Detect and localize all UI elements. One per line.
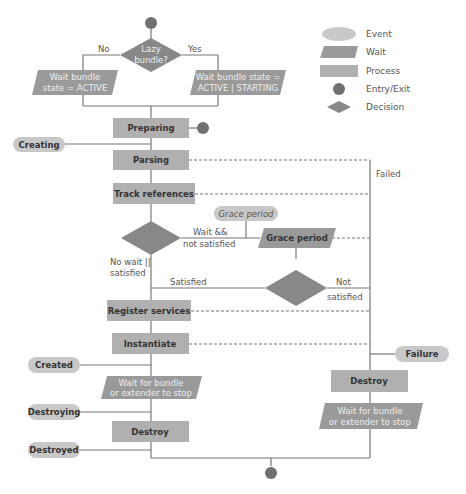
wait-bundle-active-starting: Wait bundle state = ACTIVE | STARTING (190, 70, 286, 95)
wait-active-starting-line-2: ACTIVE | STARTING (198, 83, 278, 93)
decision-lazy-bundle: Lazy bundle? (120, 38, 182, 72)
wait-stop-left-line-1: Wait for bundle (118, 378, 183, 388)
failure-label: Failure (406, 349, 439, 359)
wait-grace-period: Grace period (258, 228, 336, 248)
legend-entry-exit-swatch (333, 83, 345, 95)
destroyed-label: Destroyed (29, 445, 78, 455)
process-parsing: Parsing (113, 150, 189, 170)
created-label: Created (35, 360, 73, 370)
event-destroyed: Destroyed (28, 442, 80, 458)
wait-not-satisfied-label-2: not satisfied (183, 239, 235, 249)
legend-wait-label: Wait (366, 47, 386, 57)
decision-satisfied (265, 270, 327, 306)
legend-wait-swatch (320, 46, 358, 58)
wait-not-satisfied-label-1: Wait && (193, 227, 228, 237)
wait-stop-right-line-1: Wait for bundle (337, 406, 402, 416)
event-failure: Failure (395, 346, 449, 362)
wait-stop-right: Wait for bundle or extender to stop (319, 403, 423, 429)
not-satisfied-label-1: Not (336, 277, 352, 287)
legend-decision-label: Decision (366, 102, 404, 112)
legend: Event Wait Process Entry/Exit Decision (320, 27, 410, 113)
exit-dot-bottom (265, 467, 277, 479)
event-grace-period: Grace period (214, 206, 278, 221)
decision-wait (121, 221, 181, 255)
wait-bundle-active: Wait bundle state = ACTIVE (32, 70, 118, 95)
no-wait-satisfied-label-2: satisfied (110, 268, 146, 278)
decision-lazy-label-1: Lazy (141, 44, 160, 54)
entry-dot-top (145, 17, 157, 29)
wait-active-starting-line-1: Wait bundle state = (196, 72, 281, 82)
blueprint-lifecycle-diagram: Lazy bundle? No Yes Wait bundle state = … (0, 0, 466, 494)
instantiate-label: Instantiate (124, 339, 177, 349)
process-track-references: Track references (113, 183, 195, 204)
wait-active-line-2: state = ACTIVE (43, 83, 108, 93)
creating-label: Creating (18, 140, 59, 150)
parsing-label: Parsing (133, 155, 169, 165)
process-destroy-left: Destroy (112, 421, 189, 442)
process-register-services: Register services (107, 300, 191, 321)
not-satisfied-label-2: satisfied (327, 292, 363, 302)
register-services-label: Register services (108, 306, 191, 316)
grace-period-wait-label: Grace period (266, 233, 328, 243)
entry-dot-preparing (197, 122, 209, 134)
legend-entry-exit-label: Entry/Exit (366, 84, 410, 94)
preparing-label: Preparing (127, 123, 174, 133)
decision-lazy-label-2: bundle? (134, 55, 168, 65)
wait-stop-left: Wait for bundle or extender to stop (101, 376, 202, 399)
grace-period-event-label: Grace period (219, 209, 275, 219)
legend-process-swatch (320, 65, 358, 77)
event-destroying: Destroying (28, 404, 81, 420)
wait-stop-right-line-2: or extender to stop (329, 417, 411, 427)
track-references-label: Track references (114, 189, 194, 199)
wait-active-line-1: Wait bundle (50, 72, 101, 82)
legend-process-label: Process (366, 66, 400, 76)
legend-event-label: Event (366, 29, 392, 39)
yes-branch-label: Yes (187, 44, 202, 54)
legend-event-swatch (322, 27, 356, 41)
process-preparing: Preparing (113, 118, 189, 138)
process-instantiate: Instantiate (112, 333, 189, 354)
no-branch-label: No (98, 44, 110, 54)
satisfied-label: Satisfied (170, 277, 207, 287)
failed-label: Failed (376, 169, 401, 179)
destroy-right-label: Destroy (350, 376, 388, 386)
destroy-left-label: Destroy (131, 427, 169, 437)
legend-decision-swatch (327, 101, 351, 113)
process-destroy-right: Destroy (331, 370, 408, 392)
no-wait-satisfied-label-1: No wait || (110, 257, 151, 267)
wait-stop-left-line-2: or extender to stop (110, 388, 192, 398)
event-created: Created (28, 357, 80, 373)
event-creating: Creating (13, 137, 65, 152)
destroying-label: Destroying (28, 407, 81, 417)
